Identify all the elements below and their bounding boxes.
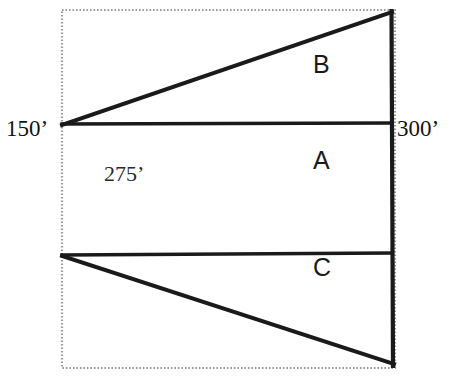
right-vertical-line — [392, 11, 394, 366]
upper-horizontal-line — [62, 123, 392, 124]
upper-diagonal-line — [62, 12, 392, 125]
inner-dimension-label: 275’ — [104, 163, 144, 185]
lower-horizontal-line — [62, 253, 392, 255]
figure-container: 150’ 300’ 275’ B A C — [0, 0, 474, 377]
region-label-c: C — [313, 255, 331, 280]
region-label-a: A — [313, 148, 330, 173]
region-label-b: B — [313, 52, 330, 77]
lower-diagonal-line — [62, 256, 394, 364]
outer-boundary-rect — [62, 10, 395, 368]
left-dimension-label: 150’ — [6, 117, 48, 140]
parcel-diagram-svg — [0, 0, 474, 377]
right-dimension-label: 300’ — [397, 117, 439, 140]
